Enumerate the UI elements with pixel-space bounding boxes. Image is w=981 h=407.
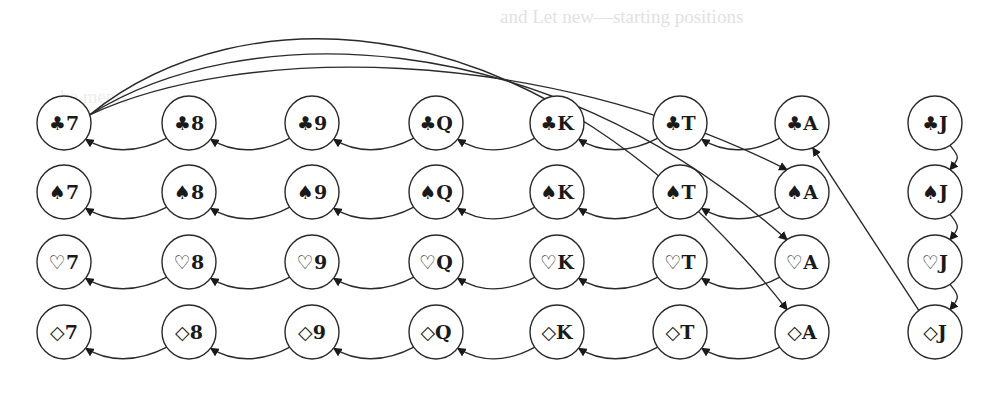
card-node-HK: ♡K <box>530 235 584 289</box>
card-node-CK: ♣K <box>530 96 584 150</box>
card-permutation-diagram: and Let new—starting positions be ments … <box>0 0 981 407</box>
node-label: ♣8 <box>174 112 204 134</box>
card-node-HJ: ♡J <box>908 235 962 289</box>
edge-DA-to-DT <box>702 347 781 359</box>
node-label: ◇8 <box>175 321 203 343</box>
node-label: ◇Q <box>420 321 451 343</box>
graph-canvas: ♣7♣8♣9♣Q♣K♣T♣A♣J♠7♠8♠9♠Q♠K♠T♠A♠J♡7♡8♡9♡Q… <box>0 0 981 407</box>
edge-H9-to-H8 <box>211 277 291 289</box>
card-node-H9: ♡9 <box>285 235 339 289</box>
card-node-HT: ♡T <box>653 235 707 289</box>
edge-DT-to-DK <box>579 347 659 359</box>
edge-DJ-to-CA <box>813 148 919 311</box>
node-label: ◇7 <box>50 321 78 343</box>
card-node-SJ: ♠J <box>908 165 962 219</box>
node-label: ◇K <box>541 321 574 343</box>
edge-ST-to-SK <box>579 207 659 219</box>
edge-SK-to-SQ <box>458 207 536 219</box>
card-node-S8: ♠8 <box>162 165 216 219</box>
nodes-layer: ♣7♣8♣9♣Q♣K♣T♣A♣J♠7♠8♠9♠Q♠K♠T♠A♠J♡7♡8♡9♡Q… <box>37 96 962 359</box>
node-label: ♡9 <box>297 251 327 273</box>
card-node-D9: ◇9 <box>285 305 339 359</box>
edge-DK-to-DQ <box>458 347 536 359</box>
edge-D8-to-D7 <box>86 347 168 359</box>
node-label: ♡Q <box>419 251 453 273</box>
edge-DQ-to-D9 <box>334 347 415 359</box>
card-node-C7: ♣7 <box>37 96 91 150</box>
node-label: ♠8 <box>174 181 204 203</box>
node-label: ◇9 <box>298 321 326 343</box>
node-label: ♠7 <box>49 181 79 203</box>
node-label: ♡J <box>922 251 948 273</box>
card-node-DT: ◇T <box>653 305 707 359</box>
node-label: ♠T <box>664 181 695 203</box>
node-label: ◇J <box>923 321 947 343</box>
node-label: ♠9 <box>297 181 327 203</box>
edge-SJ-to-HJ <box>950 214 958 240</box>
card-node-DJ: ◇J <box>908 305 962 359</box>
node-label: ◇T <box>666 321 695 343</box>
node-label: ♣T <box>664 112 695 134</box>
card-node-HQ: ♡Q <box>409 235 463 289</box>
card-node-SA: ♠A <box>775 165 829 219</box>
edge-C9-to-C8 <box>211 138 291 150</box>
edge-H8-to-H7 <box>86 277 168 289</box>
node-label: ♣7 <box>49 112 79 134</box>
node-label: ♠K <box>540 181 575 203</box>
card-node-HA: ♡A <box>775 235 829 289</box>
edge-HQ-to-H9 <box>334 277 415 289</box>
card-node-C9: ♣9 <box>285 96 339 150</box>
edge-S9-to-S8 <box>211 207 291 219</box>
node-label: ♡8 <box>174 251 204 273</box>
edge-C8-to-C7 <box>86 138 168 150</box>
card-node-C8: ♣8 <box>162 96 216 150</box>
edge-CQ-to-C9 <box>334 138 415 150</box>
node-label: ♣K <box>540 112 575 134</box>
edge-HK-to-HQ <box>458 277 536 289</box>
card-node-CJ: ♣J <box>908 96 962 150</box>
node-label: ♣A <box>786 112 818 134</box>
card-node-D8: ◇8 <box>162 305 216 359</box>
edge-S8-to-S7 <box>86 207 168 219</box>
edge-SA-to-ST <box>702 207 781 219</box>
node-label: ♠Q <box>419 181 453 203</box>
card-node-S7: ♠7 <box>37 165 91 219</box>
node-label: ◇A <box>787 321 817 343</box>
node-label: ♡T <box>664 251 695 273</box>
card-node-S9: ♠9 <box>285 165 339 219</box>
node-label: ♡K <box>540 251 575 273</box>
card-node-H7: ♡7 <box>37 235 91 289</box>
node-label: ♡A <box>786 251 818 273</box>
edge-HJ-to-DJ <box>950 284 958 310</box>
edge-SQ-to-S9 <box>334 207 415 219</box>
card-node-CT: ♣T <box>653 96 707 150</box>
card-node-D7: ◇7 <box>37 305 91 359</box>
card-node-DA: ◇A <box>775 305 829 359</box>
node-label: ♣J <box>922 112 948 134</box>
edge-HT-to-HK <box>579 277 659 289</box>
node-label: ♠A <box>786 181 818 203</box>
node-label: ♣Q <box>419 112 453 134</box>
node-label: ♠J <box>922 181 948 203</box>
card-node-CQ: ♣Q <box>409 96 463 150</box>
edge-CK-to-CQ <box>458 138 536 150</box>
card-node-SQ: ♠Q <box>409 165 463 219</box>
card-node-CA: ♣A <box>775 96 829 150</box>
card-node-SK: ♠K <box>530 165 584 219</box>
edge-D9-to-D8 <box>211 347 291 359</box>
node-label: ♡7 <box>49 251 79 273</box>
edge-CJ-to-SJ <box>950 145 958 170</box>
card-node-ST: ♠T <box>653 165 707 219</box>
card-node-H8: ♡8 <box>162 235 216 289</box>
node-label: ♣9 <box>297 112 327 134</box>
card-node-DQ: ◇Q <box>409 305 463 359</box>
card-node-DK: ◇K <box>530 305 584 359</box>
